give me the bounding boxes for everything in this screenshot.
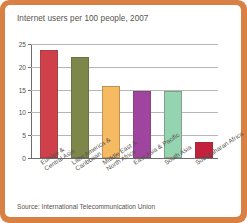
y-tick-label: 20 (19, 63, 26, 70)
y-tick-label: 5 (22, 132, 26, 139)
y-tick-label: 0 (22, 155, 26, 162)
y-tick-label: 25 (19, 41, 26, 48)
chart-title: Internet users per 100 people, 2007 (17, 14, 148, 23)
bars-layer (31, 44, 218, 158)
figure-frame: Internet users per 100 people, 2007 0510… (0, 0, 247, 223)
figure-card: Internet users per 100 people, 2007 0510… (5, 5, 241, 217)
y-tick-label: 15 (19, 86, 26, 93)
bar (40, 50, 58, 158)
source-note: Source: International Telecommunication … (17, 203, 155, 210)
y-tick-label: 10 (19, 109, 26, 116)
x-axis-labels: Europe &Central AsiaLatin America &Carib… (31, 158, 231, 206)
bar (71, 57, 89, 158)
plot-area: 0510152025 (31, 44, 218, 158)
